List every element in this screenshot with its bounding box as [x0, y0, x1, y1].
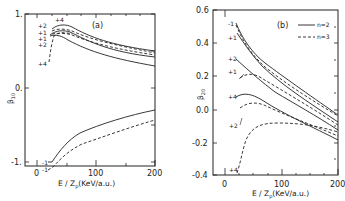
legend-n2: n=2	[317, 21, 330, 28]
panel-a-xtick-0: 0	[34, 169, 39, 178]
panel-b-ytick-0.6: 0.6	[196, 6, 209, 15]
panel-b-ytick-0.0: 0.0	[196, 106, 209, 115]
label-a-minus1-b: -1	[42, 166, 48, 173]
panel-a-label: (a)	[92, 21, 103, 30]
curve-a-plus4-n2	[52, 25, 155, 51]
panel-b-ytick-0.4: 0.4	[196, 39, 209, 48]
label-b-plus4: +4	[228, 93, 237, 100]
svg-text:β20: β20	[196, 89, 206, 100]
panel-b-curve-labels: -1 +1 +2 +1 +4 +2 +4	[228, 20, 244, 173]
curve-b-plus1-n3	[240, 74, 338, 125]
panel-b-xtick-0: 0	[222, 180, 227, 189]
panel-b-xtick-200: 200	[330, 180, 345, 189]
panel-b-ytick-neg0.2: -0.2	[192, 139, 208, 148]
curve-a-minus1-n2	[48, 110, 155, 162]
label-b-plus4-b: +4	[229, 166, 238, 173]
svg-text:β10: β10	[6, 93, 16, 104]
panel-a-xlabel: E / Zp(KeV/a.u.)	[58, 179, 115, 190]
label-a-plus4-bottom: +4	[38, 60, 47, 67]
label-b-plus2-b: +2	[229, 122, 238, 129]
panel-b-ytick-0.2: 0.2	[196, 72, 209, 81]
panel-b-xtick-100: 100	[274, 180, 289, 189]
panel-a-xtick-100: 100	[88, 169, 103, 178]
panel-b: 0.6 0.4 0.2 0.0 -0.2 -0.4 0 100 200 β20 …	[192, 6, 345, 200]
panel-a-ytick-1: 1.	[15, 10, 23, 19]
label-a-minus1: -1	[42, 159, 48, 166]
panel-a-curves	[48, 25, 155, 170]
curve-a-minus1-n3	[48, 120, 155, 170]
curve-b-plus1-n2	[237, 33, 338, 122]
panel-b-ylabel: β20	[196, 89, 206, 100]
panel-a-ylabel: β10	[6, 93, 16, 104]
curve-a-plus4-n3	[49, 33, 72, 62]
panel-b-legend: n=2 n=3	[298, 21, 330, 40]
panel-b-label: (b)	[277, 21, 288, 30]
curve-b-plus4-n3	[237, 123, 338, 173]
panel-a-ytick-0: 0.	[15, 84, 23, 93]
curve-a-plus1-n3	[52, 33, 155, 55]
curve-b-plus4-n2	[236, 94, 338, 140]
figure: 1. 0. -1. 0 100 200 β10 E / Zp(KeV/a.u.)…	[0, 0, 345, 201]
curve-b-plus2-n3	[240, 103, 338, 136]
curve-b-plus2-n2	[236, 59, 338, 130]
panel-b-curves	[236, 23, 338, 173]
label-a-plus4-top: +4	[55, 16, 64, 23]
label-b-plus1-b: +1	[228, 68, 237, 75]
panel-a-curve-labels: +4 +2 +1 +1 +2 +4 -1 -1	[38, 16, 64, 173]
label-a-plus2: +2	[38, 22, 47, 29]
curve-a-plus1-n2	[50, 31, 155, 57]
panel-a-ytick-neg1: -1.	[11, 158, 22, 167]
label-a-plus2-b: +2	[38, 41, 47, 48]
label-b-minus1: -1	[228, 20, 234, 27]
panel-b-ytick-neg0.4: -0.4	[192, 171, 208, 180]
panel-a: 1. 0. -1. 0 100 200 β10 E / Zp(KeV/a.u.)…	[6, 10, 162, 190]
label-b-plus2: +2	[228, 55, 237, 62]
label-b-plus1: +1	[228, 34, 237, 41]
panel-a-xtick-200: 200	[147, 169, 162, 178]
panel-b-xlabel: E / Zp(KeV/a.u.)	[252, 189, 309, 200]
legend-n3: n=3	[317, 33, 330, 40]
